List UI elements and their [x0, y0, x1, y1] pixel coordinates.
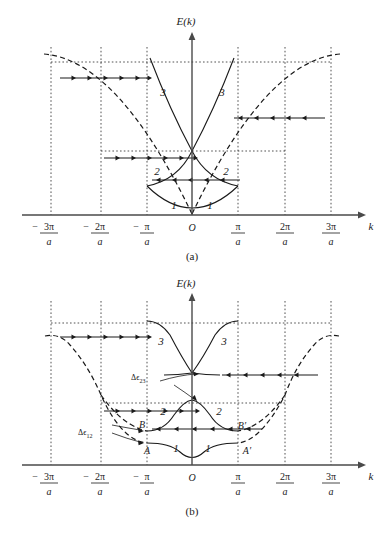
origin-label-b: O [188, 472, 195, 483]
svg-text:a: a [329, 236, 334, 247]
svg-text:a: a [47, 236, 52, 247]
svg-text:−: − [32, 221, 38, 232]
gap-label-12-b: Δϵ12 [78, 428, 92, 439]
point-label-B: B [139, 419, 145, 430]
tick-label--pi-a: − π a [133, 221, 154, 247]
horizontal-gridlines-b [51, 323, 331, 403]
svg-text:a: a [145, 236, 150, 247]
svg-text:2π: 2π [280, 221, 290, 232]
gap-23-subscript: 23 [139, 378, 145, 384]
point-label-A: A [143, 445, 151, 456]
y-axis-arrowhead-b [189, 293, 196, 301]
band-label-3-left-a: 3 [159, 86, 166, 98]
axes-b [22, 293, 366, 468]
origin-label-a: O [188, 222, 195, 233]
figure-panel-b: E(k) k O − 3π a − 2π a − π a π a 2π a 3π… [0, 263, 384, 533]
tick-label-pi-a: π a [231, 221, 245, 247]
point-label-B-prime: B′ [238, 420, 247, 431]
arrow-chain-band2-a [104, 155, 198, 160]
tick-label--3pi-a: − 3π a [32, 221, 58, 247]
y-axis-label-a: E(k) [176, 15, 196, 28]
arrow-chain-band3-left-b [60, 334, 152, 339]
arrow-chain-band3-left-a [60, 75, 152, 80]
svg-text:a: a [145, 486, 150, 497]
band-diagram-a: E(k) k O − 3π a − 2π a − π a π a 2π a 3π… [0, 0, 384, 250]
band-label-2-left-a: 2 [154, 165, 160, 177]
tick-label-pi-b: π a [231, 471, 245, 497]
svg-text:−: − [133, 471, 139, 482]
caption-a: (a) [0, 250, 384, 262]
svg-text:π: π [235, 221, 240, 232]
tick-label--2pi-b: − 2π a [83, 471, 109, 497]
x-axis-label-b: k [369, 470, 375, 482]
svg-text:a: a [98, 236, 103, 247]
svg-text:a: a [47, 486, 52, 497]
svg-text:a: a [236, 486, 241, 497]
svg-text:a: a [283, 236, 288, 247]
x-axis-label-a: k [369, 220, 375, 232]
band-label-3-left-b: 3 [157, 335, 164, 347]
band-label-1-right-a: 1 [207, 199, 213, 211]
band-label-3-right-b: 3 [220, 335, 227, 347]
svg-text:−: − [83, 471, 89, 482]
y-axis-arrowhead-a [189, 32, 196, 40]
gap-arrow-23-b [160, 372, 199, 401]
svg-text:−: − [133, 221, 139, 232]
svg-text:−: − [83, 221, 89, 232]
tick-label--2pi-a: − 2π a [83, 221, 109, 247]
caption-b: (b) [0, 505, 384, 517]
arrow-chain-band2-b [104, 408, 200, 413]
band-label-1-left-b: 1 [173, 442, 179, 454]
tick-label-2pi-a: 2π a [276, 221, 294, 247]
tick-label-2pi-b: 2π a [276, 471, 294, 497]
y-axis-label-b: E(k) [176, 277, 196, 290]
svg-text:2π: 2π [280, 471, 290, 482]
svg-text:Δϵ23: Δϵ23 [131, 373, 145, 384]
svg-text:π: π [144, 221, 149, 232]
svg-text:3π: 3π [326, 471, 336, 482]
band-label-3-right-a: 3 [218, 86, 225, 98]
svg-text:π: π [235, 471, 240, 482]
arrow-chain-band3-right-b [222, 372, 318, 377]
band-label-2-right-a: 2 [223, 165, 229, 177]
gap-12-subscript: 12 [86, 433, 92, 439]
svg-text:−: − [32, 471, 38, 482]
point-label-A-prime: A′ [242, 445, 252, 456]
svg-text:a: a [329, 486, 334, 497]
svg-text:a: a [283, 486, 288, 497]
band-label-1-right-b: 1 [205, 442, 211, 454]
svg-text:2π: 2π [95, 221, 105, 232]
band-diagram-b: E(k) k O − 3π a − 2π a − π a π a 2π a 3π… [0, 263, 384, 513]
svg-text:π: π [144, 471, 149, 482]
figure-panel-a: E(k) k O − 3π a − 2π a − π a π a 2π a 3π… [0, 0, 384, 270]
x-axis-arrowhead-a [358, 212, 366, 219]
svg-text:3π: 3π [326, 221, 336, 232]
band-label-2-left-b: 2 [160, 405, 166, 417]
svg-text:2π: 2π [95, 471, 105, 482]
svg-text:3π: 3π [44, 471, 54, 482]
tick-label--3pi-b: − 3π a [32, 471, 58, 497]
tick-label-3pi-a: 3π a [322, 221, 340, 247]
svg-text:3π: 3π [44, 221, 54, 232]
band-label-1-left-a: 1 [171, 199, 177, 211]
vertical-gridlines-a [51, 47, 331, 215]
band-label-2-right-b: 2 [216, 405, 222, 417]
horizontal-gridlines-a [51, 62, 331, 151]
svg-text:Δϵ12: Δϵ12 [78, 428, 92, 439]
arrow-chain-band1-a [152, 177, 240, 182]
tick-label-3pi-b: 3π a [322, 471, 340, 497]
svg-text:a: a [98, 486, 103, 497]
x-axis-arrowhead-b [358, 462, 366, 469]
svg-text:a: a [236, 236, 241, 247]
tick-label--pi-b: − π a [133, 471, 154, 497]
vertical-gridlines-b [51, 301, 331, 465]
